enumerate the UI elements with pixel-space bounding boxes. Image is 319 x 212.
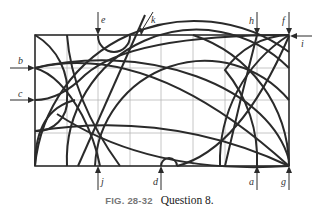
tracks [35,15,289,167]
figure-number: FIG. 28-32 [105,195,152,206]
label-f: f [282,15,286,26]
label-i: i [301,38,304,49]
particle-tracks-diagram: e k h f i b c j d a g [0,0,319,212]
figure-caption-text: Question 8. [161,194,214,206]
arrow-f [286,12,292,35]
label-h: h [249,15,254,26]
arrow-g [286,166,292,190]
arrow-a [254,166,260,190]
label-g: g [281,176,286,187]
label-j: j [99,176,104,187]
label-a: a [249,176,254,187]
arrow-d [158,166,164,190]
label-c: c [18,88,23,99]
label-d: d [153,176,159,187]
label-e: e [101,14,106,25]
label-k: k [151,14,156,25]
label-b: b [18,55,23,66]
figure-caption: FIG. 28-32Question 8. [0,194,319,206]
arrow-h [254,12,260,35]
arrow-c [10,97,35,103]
